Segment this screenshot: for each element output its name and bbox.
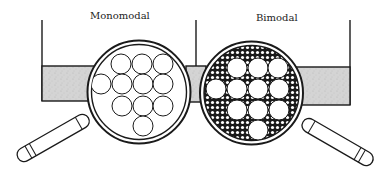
monomodal-label: Monomodal [90, 10, 150, 21]
large-particle [248, 79, 268, 99]
left-magnifier-handle [15, 112, 92, 164]
large-particle [268, 58, 288, 78]
large-particle [269, 79, 289, 99]
large-particle [248, 120, 268, 140]
large-particle [227, 79, 247, 99]
large-particle [153, 96, 173, 116]
large-particle [133, 116, 153, 136]
bimodal-magnifier [200, 42, 303, 145]
large-particle [227, 100, 247, 120]
large-particle [133, 74, 153, 94]
bimodal-label: Bimodal [256, 12, 298, 23]
large-particle [248, 58, 268, 78]
large-particle [112, 74, 132, 94]
right-band [296, 67, 350, 105]
large-particle [248, 100, 268, 120]
large-particle [111, 54, 131, 74]
diagram-canvas [0, 0, 388, 178]
large-particle [227, 58, 247, 78]
bimodal-packing-diagram: Monomodal Bimodal [0, 0, 388, 178]
large-particle [133, 96, 153, 116]
large-particle [153, 74, 173, 94]
right-magnifier-handle [299, 116, 375, 168]
large-particle [153, 54, 173, 74]
large-particle [91, 74, 111, 94]
large-particle [269, 100, 289, 120]
large-particle [206, 79, 226, 99]
monomodal-magnifier [88, 41, 191, 144]
large-particle [112, 96, 132, 116]
large-particle [132, 54, 152, 74]
